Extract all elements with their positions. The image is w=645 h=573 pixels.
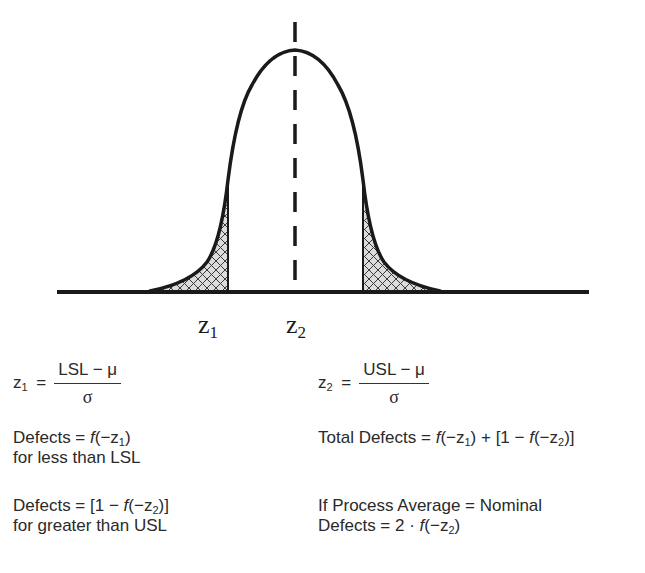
defects-above-usl-line1: Defects = [1 − f(−z2)] [13, 496, 169, 516]
z1-label-var: z [198, 310, 210, 339]
z1-fraction: LSL − μ σ [54, 361, 121, 406]
arg-close: ) + [1 − [471, 428, 530, 447]
z2-formula: z2 = USL − μ σ [318, 361, 429, 406]
arg-open: (−z [440, 428, 464, 447]
arg-close: )] [564, 428, 574, 447]
equals-sign: = [36, 373, 46, 392]
defects-above-usl-line2: for greater than USL [13, 516, 169, 536]
text-prefix: Defects = 2 · [318, 516, 420, 535]
defects-below-lsl-line1: Defects = f(−z1) [13, 428, 141, 448]
nominal-process-line2: Defects = 2 · f(−z2) [318, 516, 542, 536]
z1-axis-label: z1 [198, 312, 218, 341]
z1-label-sub: 1 [210, 323, 219, 342]
z1-sub: 1 [22, 381, 28, 393]
arg-close: ) [125, 428, 131, 447]
arg-open: (−z [424, 516, 448, 535]
total-defects-note: Total Defects = f(−z1) + [1 − f(−z2)] [318, 428, 575, 448]
arg-close: ) [455, 516, 461, 535]
nominal-process-note: If Process Average = Nominal Defects = 2… [318, 496, 542, 536]
z1-formula: z1 = LSL − μ σ [13, 361, 121, 406]
z2-denominator: σ [389, 384, 399, 406]
nominal-process-line1: If Process Average = Nominal [318, 496, 542, 516]
text-prefix: Defects = [13, 428, 90, 447]
z2-formula-lhs: z2 = [318, 374, 351, 393]
defects-below-lsl-line2: for less than LSL [13, 448, 141, 468]
arg-open: (−z [128, 496, 152, 515]
z2-axis-label: z2 [286, 312, 306, 341]
arg-open: (−z [534, 428, 558, 447]
arg-open: (−z [95, 428, 119, 447]
total-defects-line: Total Defects = f(−z1) + [1 − f(−z2)] [318, 428, 575, 448]
z2-label-sub: 2 [298, 323, 307, 342]
equals-sign: = [341, 373, 351, 392]
z1-var: z [13, 373, 22, 392]
z2-var: z [318, 373, 327, 392]
z1-numerator: LSL − μ [54, 361, 121, 384]
defects-above-usl-note: Defects = [1 − f(−z2)] for greater than … [13, 496, 169, 536]
z1-denominator: σ [83, 384, 93, 406]
defects-below-lsl-note: Defects = f(−z1) for less than LSL [13, 428, 141, 468]
z2-fraction: USL − μ σ [359, 361, 429, 406]
normal-distribution-diagram [0, 0, 645, 345]
z2-label-var: z [286, 310, 298, 339]
arg-close: )] [159, 496, 169, 515]
text-prefix: Total Defects = [318, 428, 436, 447]
z1-formula-lhs: z1 = [13, 374, 46, 393]
z2-numerator: USL − μ [359, 361, 429, 384]
z2-sub: 2 [327, 381, 333, 393]
text-prefix: Defects = [1 − [13, 496, 124, 515]
